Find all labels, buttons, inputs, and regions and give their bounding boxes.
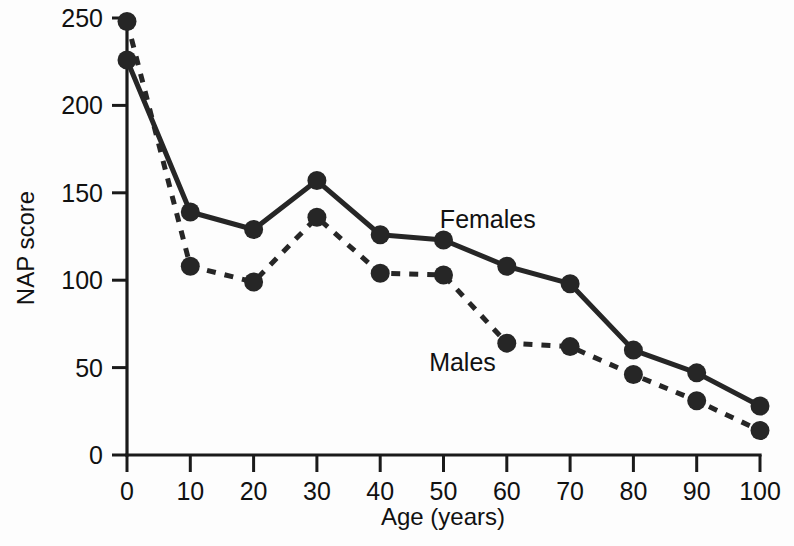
data-point [371, 225, 390, 244]
data-point [244, 220, 263, 239]
x-axis-ticks [127, 455, 760, 472]
x-tick-label-50: 50 [430, 477, 458, 505]
x-tick-label-80: 80 [619, 477, 647, 505]
y-tick-label-0: 0 [89, 441, 103, 469]
data-point [751, 397, 770, 416]
data-point [497, 334, 516, 353]
x-tick-label-0: 0 [120, 477, 134, 505]
x-axis-tick-labels: 0102030405060708090100 [120, 477, 781, 505]
x-tick-label-100: 100 [739, 477, 781, 505]
y-tick-label-150: 150 [61, 179, 103, 207]
x-axis-title: Age (years) [381, 503, 505, 530]
x-tick-label-60: 60 [493, 477, 521, 505]
y-axis-tick-labels: 050100150200250 [61, 4, 103, 469]
data-point [181, 203, 200, 222]
x-tick-label-40: 40 [366, 477, 394, 505]
data-point [371, 264, 390, 283]
x-tick-label-30: 30 [303, 477, 331, 505]
y-axis: 050100150200250 [61, 4, 127, 469]
x-tick-label-20: 20 [240, 477, 268, 505]
data-point [687, 363, 706, 382]
data-point [307, 171, 326, 190]
chart-plot-area: 050100150200250 0102030405060708090100 F… [0, 0, 794, 546]
series-label-males: Males [429, 348, 496, 376]
data-point [561, 274, 580, 293]
data-point [497, 257, 516, 276]
data-point [181, 257, 200, 276]
data-point [244, 272, 263, 291]
series-annotations: FemalesMales [429, 205, 536, 376]
x-tick-label-70: 70 [556, 477, 584, 505]
y-axis-ticks [112, 18, 127, 455]
data-point [307, 208, 326, 227]
data-point [624, 341, 643, 360]
y-tick-label-250: 250 [61, 4, 103, 32]
data-point [434, 230, 453, 249]
y-tick-label-100: 100 [61, 266, 103, 294]
series-label-females: Females [440, 205, 536, 233]
y-axis-title: NAP score [12, 191, 39, 305]
x-axis: 0102030405060708090100 [120, 455, 781, 505]
x-tick-label-90: 90 [683, 477, 711, 505]
x-tick-label-10: 10 [176, 477, 204, 505]
data-point [118, 12, 137, 31]
data-point [561, 337, 580, 356]
data-point [751, 421, 770, 440]
y-tick-label-200: 200 [61, 91, 103, 119]
data-point [118, 50, 137, 69]
data-point [434, 265, 453, 284]
chart-figure: 050100150200250 0102030405060708090100 F… [0, 0, 794, 546]
y-tick-label-50: 50 [75, 354, 103, 382]
data-point [687, 391, 706, 410]
data-point [624, 365, 643, 384]
